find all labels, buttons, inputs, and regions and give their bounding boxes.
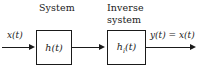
caption-inverse-system-line1: Inverse [107, 3, 144, 13]
input-wire [2, 47, 30, 48]
block-system: h(t) [36, 30, 72, 65]
interconnect-arrowhead-icon [99, 44, 105, 50]
block-inverse-label-arg: (t) [125, 41, 136, 52]
caption-inverse-system-line2: system [107, 15, 141, 25]
caption-system: System [39, 3, 75, 13]
output-wire [146, 47, 191, 48]
block-system-label: h(t) [45, 42, 62, 53]
block-system-label-arg: (t) [51, 42, 62, 53]
interconnect-wire [72, 47, 100, 48]
input-signal-label: x(t) [7, 31, 23, 40]
block-inverse-system: hi(t) [107, 30, 146, 65]
input-arrowhead-icon [29, 44, 35, 50]
block-inverse-label: hi(t) [117, 41, 136, 55]
output-signal-label: y(t) = x(t) [150, 31, 195, 40]
output-arrowhead-icon [190, 44, 196, 50]
block-diagram-figure: System Inverse system x(t) y(t) = x(t) h… [0, 0, 201, 70]
